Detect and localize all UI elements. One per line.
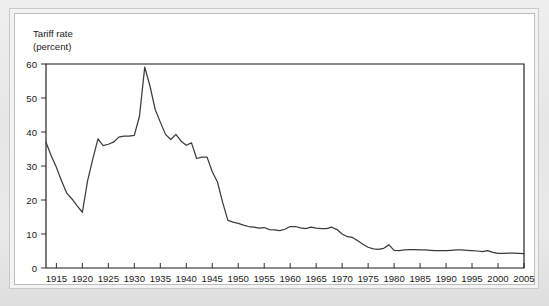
chart-panel: Tariff rate (percent) 6050403020100 1915… — [14, 13, 535, 285]
x-tick-label: 1975 — [357, 273, 378, 284]
x-tick-label: 2000 — [487, 273, 508, 284]
y-tick-label: 60 — [26, 59, 37, 70]
y-tick-label: 40 — [26, 127, 37, 138]
x-tick-label: 1955 — [254, 273, 275, 284]
x-tick-label: 1935 — [150, 273, 171, 284]
x-tick-label: 1965 — [306, 273, 327, 284]
x-tick-label: 2005 — [513, 273, 534, 284]
x-tick-label: 1995 — [461, 273, 482, 284]
y-tick-label: 30 — [26, 161, 37, 172]
y-axis-tick-marks — [41, 64, 46, 268]
x-tick-label: 1960 — [280, 273, 301, 284]
figure-root: Tariff rate (percent) 6050403020100 1915… — [0, 0, 549, 306]
y-axis-tick-labels: 6050403020100 — [26, 59, 37, 274]
x-tick-label: 1945 — [202, 273, 223, 284]
x-tick-label: 1950 — [228, 273, 249, 284]
y-tick-label: 50 — [26, 93, 37, 104]
x-tick-label: 1920 — [72, 273, 93, 284]
x-tick-label: 1925 — [98, 273, 119, 284]
y-tick-label: 0 — [32, 263, 37, 274]
y-axis-title-line1: Tariff rate — [33, 28, 73, 39]
x-axis-tick-labels: 1915192019251930193519401945195019551960… — [46, 273, 535, 284]
y-tick-label: 10 — [26, 229, 37, 240]
x-tick-label: 1940 — [176, 273, 197, 284]
x-tick-label: 1990 — [435, 273, 456, 284]
tariff-rate-series — [46, 67, 524, 254]
y-axis-title-line2: (percent) — [33, 41, 71, 52]
y-tick-label: 20 — [26, 195, 37, 206]
x-tick-label: 1985 — [409, 273, 430, 284]
x-tick-label: 1915 — [46, 273, 67, 284]
x-tick-label: 1970 — [331, 273, 352, 284]
plot-frame — [46, 64, 524, 268]
tariff-rate-line-chart: Tariff rate (percent) 6050403020100 1915… — [15, 14, 536, 286]
x-axis-tick-marks — [56, 263, 524, 268]
x-tick-label: 1930 — [124, 273, 145, 284]
x-tick-label: 1980 — [383, 273, 404, 284]
